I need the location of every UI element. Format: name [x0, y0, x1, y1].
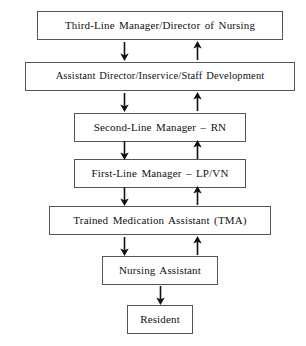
node-label: Third-Line Manager/Director of Nursing — [65, 20, 255, 31]
node-resident: Resident — [127, 305, 193, 334]
arrow-down-icon — [118, 41, 131, 61]
node-label: Second-Line Manager – RN — [94, 122, 226, 133]
node-label: Trained Medication Assistant (TMA) — [73, 215, 246, 226]
arrow-down-icon — [118, 92, 131, 112]
node-label: First-Line Manager – LP/VN — [91, 168, 228, 179]
arrow-down-icon — [154, 285, 167, 305]
node-assistant-director: Assistant Director/Inservice/Staff Devel… — [25, 62, 295, 91]
arrow-up-icon — [191, 186, 204, 206]
arrow-up-icon — [191, 140, 204, 160]
arrow-up-icon — [191, 92, 204, 112]
node-label: Nursing Assistant — [119, 265, 201, 276]
node-first-line-manager: First-Line Manager – LP/VN — [74, 159, 246, 188]
org-hierarchy-diagram: Third-Line Manager/Director of Nursing A… — [14, 0, 306, 346]
node-second-line-manager: Second-Line Manager – RN — [74, 113, 246, 142]
node-third-line-manager: Third-Line Manager/Director of Nursing — [37, 11, 283, 40]
arrow-up-icon — [191, 236, 204, 256]
arrow-down-icon — [118, 186, 131, 206]
node-nursing-assistant: Nursing Assistant — [102, 256, 218, 285]
arrow-down-icon — [118, 236, 131, 256]
node-label: Resident — [140, 314, 180, 325]
node-trained-medication-assistant: Trained Medication Assistant (TMA) — [49, 206, 271, 235]
arrow-down-icon — [118, 140, 131, 160]
arrow-up-icon — [191, 41, 204, 61]
node-label: Assistant Director/Inservice/Staff Devel… — [56, 71, 265, 82]
